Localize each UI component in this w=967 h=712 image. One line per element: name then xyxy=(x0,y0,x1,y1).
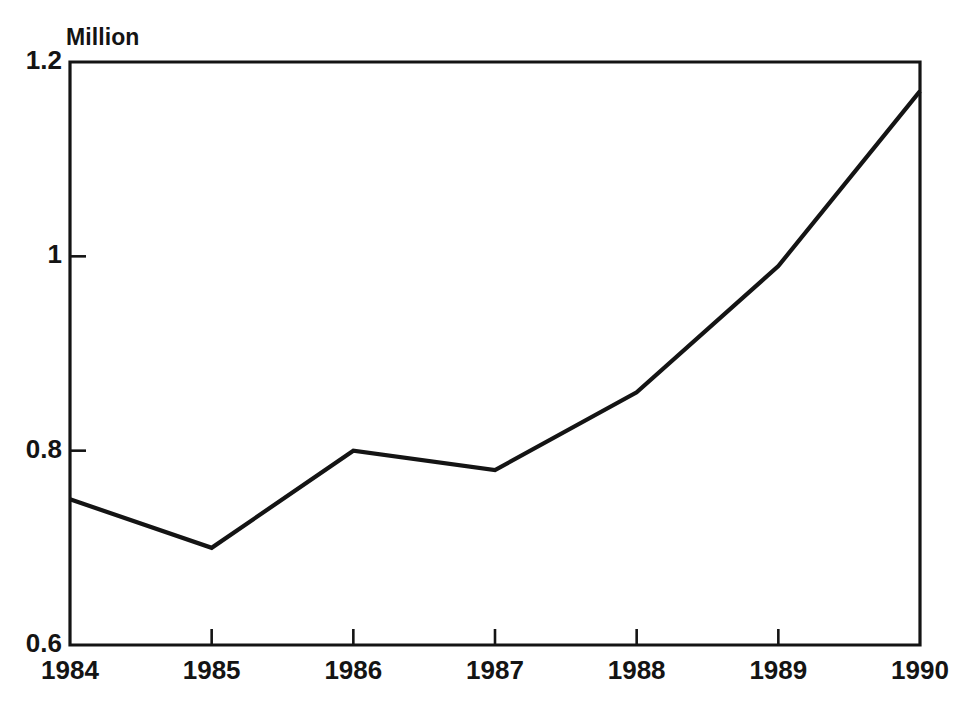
x-tick-label: 1986 xyxy=(293,655,413,686)
x-tick-label: 1988 xyxy=(577,655,697,686)
plot-canvas xyxy=(0,0,967,712)
x-tick-label: 1987 xyxy=(435,655,555,686)
y-axis-ticks xyxy=(70,256,86,450)
y-tick-label: 1.2 xyxy=(4,45,62,76)
x-tick-label: 1989 xyxy=(718,655,838,686)
axis-frame xyxy=(70,62,920,645)
x-axis-ticks xyxy=(212,629,779,645)
y-tick-label: 1 xyxy=(4,239,62,270)
data-series-group xyxy=(70,91,920,548)
x-tick-label: 1985 xyxy=(152,655,272,686)
series-line-path xyxy=(70,91,920,548)
axis-frame-path xyxy=(70,62,920,645)
line-chart: Million 1.210.80.6 198419851986198719881… xyxy=(0,0,967,712)
x-tick-label: 1990 xyxy=(860,655,967,686)
y-tick-label: 0.8 xyxy=(4,434,62,465)
x-tick-label: 1984 xyxy=(10,655,130,686)
